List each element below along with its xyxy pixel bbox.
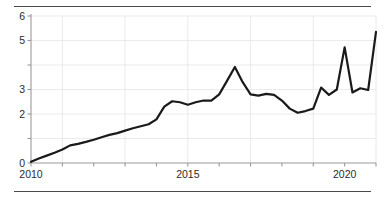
data-series-group xyxy=(31,32,376,162)
figure-rule-bottom xyxy=(14,191,371,192)
figure-container: 02356 201020152020 xyxy=(0,0,385,202)
x-tick-label: 2020 xyxy=(333,168,357,180)
series-line-series-1 xyxy=(31,32,376,162)
y-tick-label: 6 xyxy=(19,10,25,22)
gridlines-group xyxy=(31,16,376,139)
x-tick-label: 2015 xyxy=(176,168,200,180)
figure-rule-top xyxy=(14,6,371,7)
y-tick-label: 3 xyxy=(19,83,25,95)
x-tick-label: 2010 xyxy=(19,168,43,180)
x-tick-labels: 201020152020 xyxy=(19,168,356,180)
y-tick-labels: 02356 xyxy=(19,10,25,169)
line-chart: 02356 201020152020 xyxy=(0,8,385,188)
y-tick-label: 5 xyxy=(19,34,25,46)
chart-plot-area: 02356 201020152020 xyxy=(0,8,385,188)
y-tick-label: 2 xyxy=(19,108,25,120)
y-tick-label: 0 xyxy=(19,157,25,169)
